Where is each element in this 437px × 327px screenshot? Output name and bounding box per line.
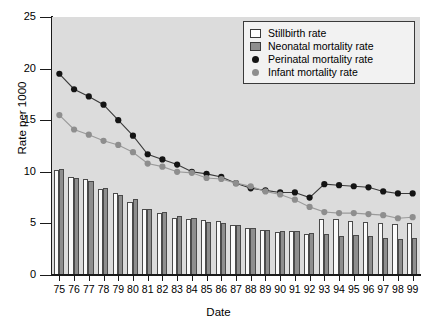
point-perinatal-82: [159, 156, 165, 162]
point-perinatal-83: [174, 161, 180, 167]
x-tick-87: [236, 275, 237, 281]
x-tick-90: [280, 275, 281, 281]
gray-dot-marker-swatch: [252, 69, 259, 76]
x-tick-93: [324, 275, 325, 281]
y-axis-title: Rate per 1000: [16, 48, 28, 188]
x-tick-91: [295, 275, 296, 281]
point-perinatal-94: [336, 182, 342, 188]
x-tick-77: [89, 275, 90, 281]
x-tick-75: [59, 275, 60, 281]
legend-label-3: Infant mortality rate: [268, 67, 358, 78]
x-tick-84: [192, 275, 193, 281]
point-infant-91: [292, 197, 298, 203]
point-infant-87: [233, 180, 239, 186]
point-infant-92: [307, 204, 313, 210]
x-tick-label-99: 99: [403, 283, 423, 295]
point-infant-98: [395, 215, 401, 221]
legend-label-0: Stillbirth rate: [268, 28, 326, 39]
legend-item-2[interactable]: Perinatal mortality rate: [249, 53, 409, 65]
x-axis-ticks: [52, 275, 420, 281]
point-perinatal-80: [130, 133, 136, 139]
point-perinatal-93: [321, 181, 327, 187]
x-tick-80: [133, 275, 134, 281]
x-tick-96: [368, 275, 369, 281]
x-tick-76: [74, 275, 75, 281]
y-tick-15: [40, 120, 51, 121]
point-perinatal-95: [351, 183, 357, 189]
gray-dot-marker: [249, 67, 262, 78]
legend-label-1: Neonatal mortality rate: [268, 41, 374, 52]
point-infant-86: [218, 176, 224, 182]
y-tick-25: [40, 17, 51, 18]
legend-item-3[interactable]: Infant mortality rate: [249, 66, 409, 78]
point-infant-76: [71, 126, 77, 132]
y-tick-label-5: 5: [6, 217, 36, 228]
point-infant-75: [56, 112, 62, 118]
x-tick-79: [118, 275, 119, 281]
point-infant-77: [86, 132, 92, 138]
point-perinatal-79: [115, 117, 121, 123]
point-infant-80: [130, 149, 136, 155]
x-tick-83: [177, 275, 178, 281]
black-dot-marker-swatch: [252, 56, 259, 63]
point-infant-83: [174, 169, 180, 175]
point-infant-97: [380, 212, 386, 218]
x-tick-92: [310, 275, 311, 281]
point-perinatal-81: [145, 151, 151, 157]
x-tick-85: [207, 275, 208, 281]
x-tick-86: [221, 275, 222, 281]
point-perinatal-92: [307, 195, 313, 201]
y-tick-label-25: 25: [6, 11, 36, 22]
point-infant-81: [145, 160, 151, 166]
point-perinatal-99: [410, 190, 416, 196]
legend-label-2: Perinatal mortality rate: [268, 54, 373, 65]
x-tick-81: [148, 275, 149, 281]
point-infant-85: [203, 175, 209, 181]
line-path-infant: [59, 115, 412, 218]
chart-container: 0510152025 Rate per 1000 757677787980818…: [0, 0, 437, 327]
x-tick-99: [413, 275, 414, 281]
point-infant-78: [100, 138, 106, 144]
y-tick-5: [40, 223, 51, 224]
point-perinatal-76: [71, 86, 77, 92]
black-dot-marker: [249, 54, 262, 65]
point-perinatal-75: [56, 71, 62, 77]
x-axis-title: Date: [0, 306, 437, 318]
point-infant-95: [351, 210, 357, 216]
line-path-perinatal: [59, 74, 412, 198]
point-perinatal-97: [380, 188, 386, 194]
point-perinatal-96: [365, 184, 371, 190]
x-tick-97: [383, 275, 384, 281]
y-tick-10: [40, 172, 51, 173]
point-perinatal-91: [292, 189, 298, 195]
y-tick-20: [40, 69, 51, 70]
chart-legend: Stillbirth rateNeonatal mortality ratePe…: [243, 21, 415, 84]
white-rect-swatch-swatch: [250, 29, 261, 38]
point-infant-89: [262, 188, 268, 194]
white-rect-swatch: [249, 28, 262, 39]
point-infant-84: [189, 170, 195, 176]
x-tick-78: [104, 275, 105, 281]
point-infant-88: [248, 183, 254, 189]
point-perinatal-78: [100, 102, 106, 108]
x-tick-88: [251, 275, 252, 281]
x-tick-82: [162, 275, 163, 281]
point-infant-94: [336, 210, 342, 216]
point-infant-93: [321, 209, 327, 215]
point-infant-79: [115, 142, 121, 148]
y-tick-0: [40, 275, 51, 276]
legend-item-0[interactable]: Stillbirth rate: [249, 27, 409, 39]
gray-rect-swatch: [249, 41, 262, 52]
x-tick-95: [354, 275, 355, 281]
gray-rect-swatch-swatch: [250, 42, 261, 51]
x-tick-94: [339, 275, 340, 281]
point-infant-82: [159, 164, 165, 170]
point-perinatal-77: [86, 93, 92, 99]
point-infant-99: [410, 214, 416, 220]
point-infant-96: [365, 211, 371, 217]
x-tick-89: [265, 275, 266, 281]
legend-item-1[interactable]: Neonatal mortality rate: [249, 40, 409, 52]
point-infant-90: [277, 191, 283, 197]
point-perinatal-98: [395, 190, 401, 196]
y-tick-label-0: 0: [6, 269, 36, 280]
